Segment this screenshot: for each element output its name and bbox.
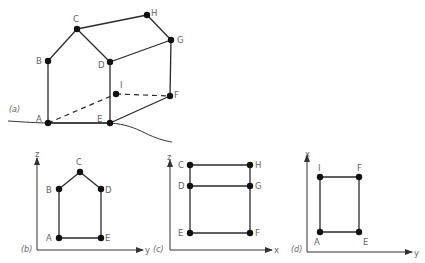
label-E: E (97, 114, 102, 124)
panel-a-perspective: A B C D E F G H I (a) (8, 8, 184, 142)
vertex-A (45, 120, 51, 126)
vertex-E (187, 230, 193, 236)
edge-D-G (110, 40, 171, 62)
label-A: A (314, 237, 320, 247)
panel-c-side-view: z x C H D G E F (c) (153, 152, 279, 255)
vertex-I (317, 174, 323, 180)
vertex-G (168, 37, 174, 43)
label-C: C (178, 160, 184, 170)
label-E: E (105, 233, 110, 243)
vertex-A (56, 235, 62, 241)
edge-G-F (170, 40, 171, 96)
label-D: D (178, 181, 185, 191)
vertex-A (317, 229, 323, 235)
vertex-C (187, 162, 193, 168)
axis-label-z: z (167, 152, 172, 162)
vertex-B (56, 186, 62, 192)
edge-B-C (48, 29, 77, 61)
vertex-F (247, 230, 253, 236)
edge-C-H (77, 15, 147, 29)
label-H: H (255, 160, 261, 170)
vertex-C (77, 169, 83, 175)
hidden-edge-I-F (116, 94, 170, 96)
ground-line (8, 121, 172, 142)
panel-d-top-view: x y I F A E (d) (291, 149, 419, 258)
panel-label-d: (d) (291, 245, 302, 254)
label-F: F (174, 90, 179, 100)
label-B: B (36, 56, 42, 66)
edge-H-G (147, 15, 171, 40)
vertex-F (167, 93, 173, 99)
panel-label-a: (a) (9, 105, 20, 114)
label-C: C (76, 157, 82, 167)
edge-B-C (59, 172, 80, 189)
vertex-E (107, 120, 113, 126)
vertex-C (74, 26, 80, 32)
label-I: I (120, 80, 123, 90)
vertex-D (187, 183, 193, 189)
edge-E-F (110, 96, 170, 123)
vertex-B (45, 58, 51, 64)
label-D: D (98, 60, 105, 70)
panel-b-front-view: z y A B C D E (b) (21, 149, 150, 255)
vertex-E (356, 229, 362, 235)
edge-C-D (77, 29, 110, 62)
edge-C-D (80, 172, 101, 189)
axis-label-y: y (414, 248, 419, 258)
vertex-H (144, 12, 150, 18)
label-G: G (255, 181, 262, 191)
panel-label-b: (b) (21, 245, 32, 254)
vertex-D (107, 59, 113, 65)
axis-label-y: y (145, 245, 150, 255)
panel-label-c: (c) (153, 245, 164, 254)
vertex-D (98, 186, 104, 192)
label-D: D (105, 185, 112, 195)
label-A: A (36, 114, 42, 124)
axis-label-x: x (305, 149, 310, 159)
label-B: B (46, 185, 52, 195)
label-G: G (177, 35, 184, 45)
label-C: C (73, 14, 79, 24)
label-F: F (357, 163, 362, 173)
vertex-F (356, 174, 362, 180)
label-E: E (363, 237, 368, 247)
axis-label-x: x (274, 245, 279, 255)
hidden-edge-A-I (48, 94, 116, 123)
label-H: H (151, 8, 157, 18)
axis-label-z: z (35, 149, 40, 159)
label-F: F (255, 228, 260, 238)
label-A: A (46, 233, 52, 243)
figure-canvas: A B C D E F G H I (a) z y A B C D E (b) (0, 0, 425, 263)
label-I: I (318, 163, 321, 173)
vertex-I (113, 91, 119, 97)
vertex-G (247, 183, 253, 189)
vertex-H (247, 162, 253, 168)
label-E: E (178, 228, 183, 238)
vertex-E (98, 235, 104, 241)
